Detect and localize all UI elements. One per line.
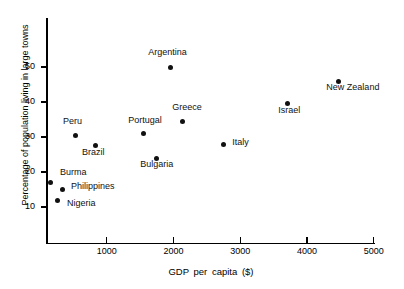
scatter-chart: 1020304050 10002000300040005000 BurmaNig… [0, 0, 404, 289]
data-point-portugal[interactable] [141, 131, 146, 136]
data-point-burma[interactable] [48, 180, 53, 185]
data-point-label-israel: Israel [278, 105, 300, 115]
data-point-label-argentina: Argentina [148, 47, 187, 57]
y-axis-line [46, 18, 48, 244]
x-tick-label-3000: 3000 [220, 246, 260, 256]
data-point-label-burma: Burma [60, 167, 87, 177]
x-tick-label-2000: 2000 [154, 246, 194, 256]
y-tick-40 [41, 101, 47, 102]
x-tick-2000 [173, 237, 174, 243]
data-point-peru[interactable] [73, 133, 78, 138]
x-tick-4000 [306, 237, 307, 243]
data-point-italy[interactable] [221, 142, 226, 147]
x-tick-1000 [106, 237, 107, 243]
x-tick-label-4000: 4000 [287, 246, 327, 256]
x-tick-label-1000: 1000 [87, 246, 127, 256]
data-point-label-greece: Greece [172, 102, 202, 112]
x-tick-3000 [240, 237, 241, 243]
data-point-label-brazil: Brazil [82, 147, 105, 157]
y-tick-30 [41, 136, 47, 137]
y-tick-50 [41, 66, 47, 67]
y-tick-20 [41, 171, 47, 172]
x-axis-line [46, 243, 375, 245]
data-point-label-philippines: Philippines [71, 181, 115, 191]
data-point-label-portugal: Portugal [128, 115, 162, 125]
data-point-philippines[interactable] [60, 187, 65, 192]
data-point-label-new-zealand: New Zealand [326, 82, 379, 92]
data-point-argentina[interactable] [168, 65, 173, 70]
data-point-nigeria[interactable] [55, 198, 60, 203]
x-tick-5000 [373, 237, 374, 243]
y-axis-title: Percentage of population living in large… [20, 15, 30, 215]
data-point-label-italy: Italy [232, 137, 249, 147]
x-tick-label-5000: 5000 [354, 246, 394, 256]
data-point-label-bulgaria: Bulgaria [140, 159, 173, 169]
y-tick-10 [41, 206, 47, 207]
data-point-greece[interactable] [180, 119, 185, 124]
x-axis-title: GDP per capita ($) [96, 266, 326, 277]
data-point-label-nigeria: Nigeria [67, 198, 96, 208]
data-point-label-peru: Peru [63, 116, 82, 126]
